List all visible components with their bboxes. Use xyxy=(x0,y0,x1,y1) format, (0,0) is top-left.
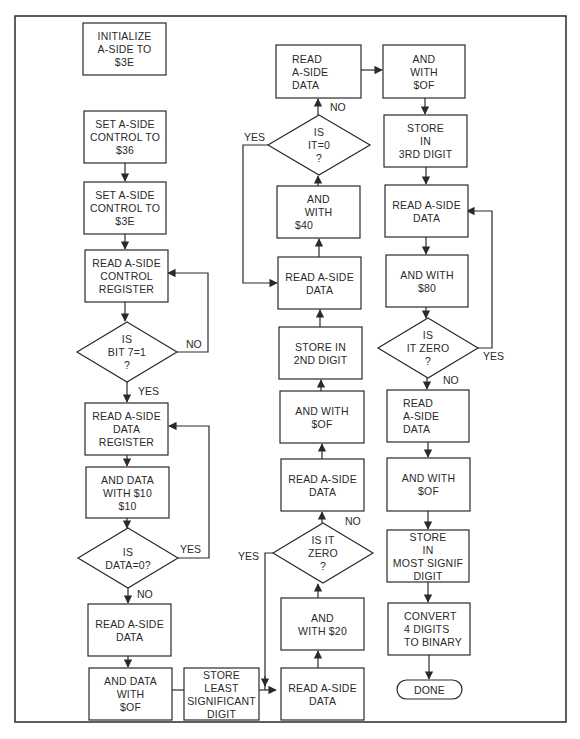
node-label-line: DATA xyxy=(113,423,140,435)
node-label-line: STORE IN xyxy=(295,341,346,353)
node-label-line: AND DATA xyxy=(101,474,154,486)
node-bit7-decision: ISBIT 7=1? xyxy=(77,322,177,382)
label-zero2-yes: YES xyxy=(238,550,259,562)
node-label-line: 2ND DIGIT xyxy=(294,354,348,366)
node-store3rd-process: STOREIN3RD DIGIT xyxy=(384,115,467,167)
node-label-line: IS xyxy=(423,329,433,341)
node-label-line: READ xyxy=(292,53,322,65)
node-label-line: WITH xyxy=(117,688,145,700)
node-label-line: IT ZERO xyxy=(407,342,450,354)
label-it0-no: NO xyxy=(330,101,346,113)
node-label-line: $36 xyxy=(116,144,134,156)
node-and0f2-process: AND WITH$OF xyxy=(280,391,364,443)
label-data0-no: NO xyxy=(137,588,153,600)
node-read3-process: READ A-SIDEDATA xyxy=(281,459,364,511)
node-label-line: DATA xyxy=(403,423,430,435)
node-label-line: READ A-SIDE xyxy=(92,257,161,269)
node-label-line: IS xyxy=(122,333,132,345)
node-label-line: DIGIT xyxy=(207,708,236,720)
node-label-line: AND xyxy=(311,612,334,624)
node-read1-process: READ A-SIDEDATA xyxy=(88,604,171,656)
node-label-line: STORE xyxy=(203,669,240,681)
node-label-line: DIGIT xyxy=(414,570,443,582)
node-label-line: $OF xyxy=(418,485,439,497)
node-readctrl-process: READ A-SIDECONTROLREGISTER xyxy=(85,250,168,302)
node-label-line: WITH xyxy=(305,206,333,218)
node-and20-process: ANDWITH $20 xyxy=(281,598,364,650)
label-it0-yes: YES xyxy=(244,131,265,143)
node-read5-process: READA-SIDEDATA xyxy=(276,45,361,98)
node-set36-process: SET A-SIDECONTROL TO$36 xyxy=(84,111,166,163)
node-label-line: DATA xyxy=(306,284,333,296)
node-label-line: INITIALIZE xyxy=(98,30,152,42)
node-label-line: $3E xyxy=(115,215,134,227)
node-label-line: $OF xyxy=(120,701,141,713)
node-label-line: 3RD DIGIT xyxy=(399,148,453,160)
node-label-line: READ A-SIDE xyxy=(92,410,161,422)
node-label-line: AND xyxy=(413,53,436,65)
node-label-line: CONTROL xyxy=(100,270,153,282)
node-label-line: IN xyxy=(420,135,431,147)
node-label-line: ? xyxy=(320,560,326,572)
node-read7-process: READA-SIDEDATA xyxy=(387,390,469,442)
node-label-line: REGISTER xyxy=(99,436,154,448)
node-label-line: ? xyxy=(425,355,431,367)
node-label-line: $80 xyxy=(418,282,436,294)
node-label-line: IT=0 xyxy=(308,139,330,151)
node-label-line: REGISTER xyxy=(99,283,154,295)
node-label-line: STORE xyxy=(407,122,444,134)
node-and0f3-process: ANDWITH$OF xyxy=(383,45,465,98)
node-read2-process: READ A-SIDEDATA xyxy=(281,668,364,720)
node-label-line: ? xyxy=(124,359,130,371)
node-zero2-decision: IS ITZERO? xyxy=(273,523,373,583)
node-and10-process: AND DATAWITH $10$10 xyxy=(86,467,169,518)
node-label-line: LEAST xyxy=(204,682,239,694)
node-label-line: CONVERT xyxy=(404,610,457,622)
node-label-line: SIGNIFICANT xyxy=(187,695,256,707)
node-label-line: IN xyxy=(423,544,434,556)
node-label-line: $40 xyxy=(295,219,313,231)
node-label-line: IS IT xyxy=(311,534,335,546)
node-and0f4-process: AND WITH$OF xyxy=(387,458,470,511)
node-storemsd-process: STOREINMOST SIGNIFDIGIT xyxy=(387,530,469,582)
node-label-line: AND DATA xyxy=(104,675,157,687)
flowchart-canvas: INITIALIZEA-SIDE TO$3ESET A-SIDECONTROL … xyxy=(0,0,580,739)
node-zero3-decision: ISIT ZERO? xyxy=(378,318,478,378)
node-label-line: WITH xyxy=(410,66,438,78)
node-convert-process: CONVERT4 DIGITSTO BINARY xyxy=(388,603,470,655)
node-label-line: $OF xyxy=(311,418,332,430)
node-label-line: ? xyxy=(316,152,322,164)
node-label-line: $3E xyxy=(115,56,134,68)
node-label-line: TO BINARY xyxy=(404,636,462,648)
node-label-line: 4 DIGITS xyxy=(404,623,449,635)
node-it0-decision: ISIT=0? xyxy=(268,115,370,175)
node-set3e-process: SET A-SIDECONTROL TO$3E xyxy=(84,182,166,234)
node-label-line: IS xyxy=(123,546,133,558)
label-bit7-yes: YES xyxy=(138,385,159,397)
node-store2nd-process: STORE IN2ND DIGIT xyxy=(279,327,362,379)
node-label-line: STORE xyxy=(410,531,447,543)
node-label-line: READ A-SIDE xyxy=(288,682,357,694)
label-zero2-no: NO xyxy=(345,515,361,527)
node-label-line: DATA=0? xyxy=(105,559,151,571)
node-label-line: DATA xyxy=(292,79,319,91)
node-read4-process: READ A-SIDEDATA xyxy=(278,257,361,309)
node-label-line: MOST SIGNIF xyxy=(393,557,463,569)
label-data0-yes: YES xyxy=(180,543,201,555)
node-label-line: WITH $10 xyxy=(103,487,152,499)
node-label-line: AND WITH xyxy=(400,269,454,281)
node-label-line: DONE xyxy=(414,684,445,696)
node-label-line: $OF xyxy=(413,79,434,91)
node-data0-decision: ISDATA=0? xyxy=(78,528,178,588)
node-label-line: AND WITH xyxy=(295,405,349,417)
node-and0f1-process: AND DATAWITH$OF xyxy=(89,668,172,720)
label-bit7-no: NO xyxy=(186,338,202,350)
node-and80-process: AND WITH$80 xyxy=(386,255,468,307)
node-label-line: READ xyxy=(403,397,433,409)
node-label-line: SET A-SIDE xyxy=(95,189,155,201)
node-init-process: INITIALIZEA-SIDE TO$3E xyxy=(83,23,166,75)
label-zero3-yes: YES xyxy=(483,350,504,362)
node-done-terminal: DONE xyxy=(397,680,462,699)
node-label-line: AND xyxy=(307,193,330,205)
node-read6-process: READ A-SIDEDATA xyxy=(385,185,468,237)
